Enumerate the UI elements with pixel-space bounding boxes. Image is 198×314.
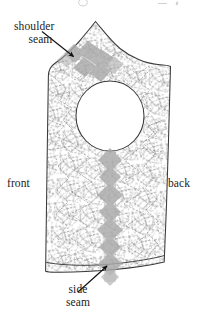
label-front: front: [7, 177, 30, 190]
cropped-text-remnant: [79, 0, 179, 6]
label-side-seam-line1: side: [69, 283, 88, 295]
label-side-seam-line2: seam: [55, 296, 101, 309]
label-shoulder-seam: shoulder seam: [14, 20, 54, 45]
label-shoulder-seam-line1: shoulder: [14, 20, 54, 32]
neck-opening: [76, 81, 144, 151]
label-side-seam: side seam: [55, 283, 101, 308]
label-shoulder-seam-line2: seam: [14, 33, 54, 46]
label-back: back: [168, 177, 190, 190]
garment-seam-diagram: [0, 0, 198, 314]
